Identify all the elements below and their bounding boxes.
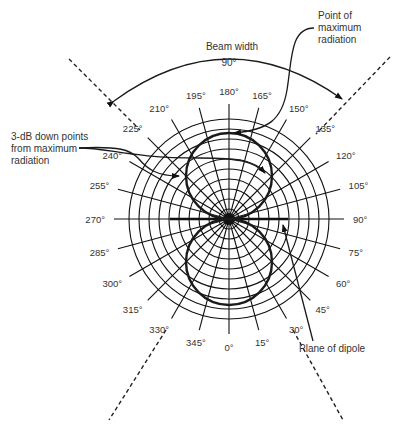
angle-label: 255° — [90, 180, 110, 191]
angle-label: 15° — [255, 337, 270, 348]
angle-label: 300° — [102, 278, 122, 289]
angle-label: 60° — [336, 278, 351, 289]
angle-label: 345° — [186, 337, 206, 348]
angle-label: 150° — [289, 103, 309, 114]
angle-label: 30° — [289, 324, 304, 335]
beam-boundary-upper-left — [69, 59, 140, 130]
angle-label: 105° — [349, 180, 369, 191]
max-radiation-annotation: Point of maximum radiation — [234, 10, 361, 133]
angle-label: 0° — [224, 342, 233, 353]
beam-width-label: Beam width — [206, 41, 258, 52]
three-db-line-1: 3-dB down points — [11, 131, 88, 142]
beam-width-value: 90° — [221, 57, 236, 68]
angle-label: 120° — [336, 150, 356, 161]
max-radiation-line-2: maximum — [318, 22, 361, 33]
angle-label: 315° — [123, 304, 143, 315]
angle-label: 330° — [149, 324, 169, 335]
angle-label: 135° — [316, 123, 336, 134]
three-db-line-3: radiation — [11, 155, 49, 166]
beam-boundary-lower-left — [109, 330, 166, 420]
angle-label: 225° — [123, 123, 143, 134]
angle-label: 90° — [353, 214, 368, 225]
dipole-radiation-diagram: 0°15°30°45°60°75°90°105°120°135°150°165°… — [0, 0, 393, 430]
angle-label: 45° — [316, 304, 331, 315]
three-db-line-2: from maximum — [11, 143, 77, 154]
angle-label: 165° — [252, 90, 272, 101]
max-radiation-line-1: Point of — [318, 10, 352, 21]
plane-of-dipole-label: Plane of dipole — [299, 343, 366, 354]
angle-label: 285° — [90, 247, 110, 258]
angle-label: 270° — [85, 214, 105, 225]
angle-label: 75° — [349, 247, 364, 258]
max-radiation-line-3: radiation — [318, 34, 356, 45]
angle-label: 180° — [219, 86, 239, 97]
angle-label: 210° — [149, 103, 169, 114]
angle-label: 195° — [186, 90, 206, 101]
